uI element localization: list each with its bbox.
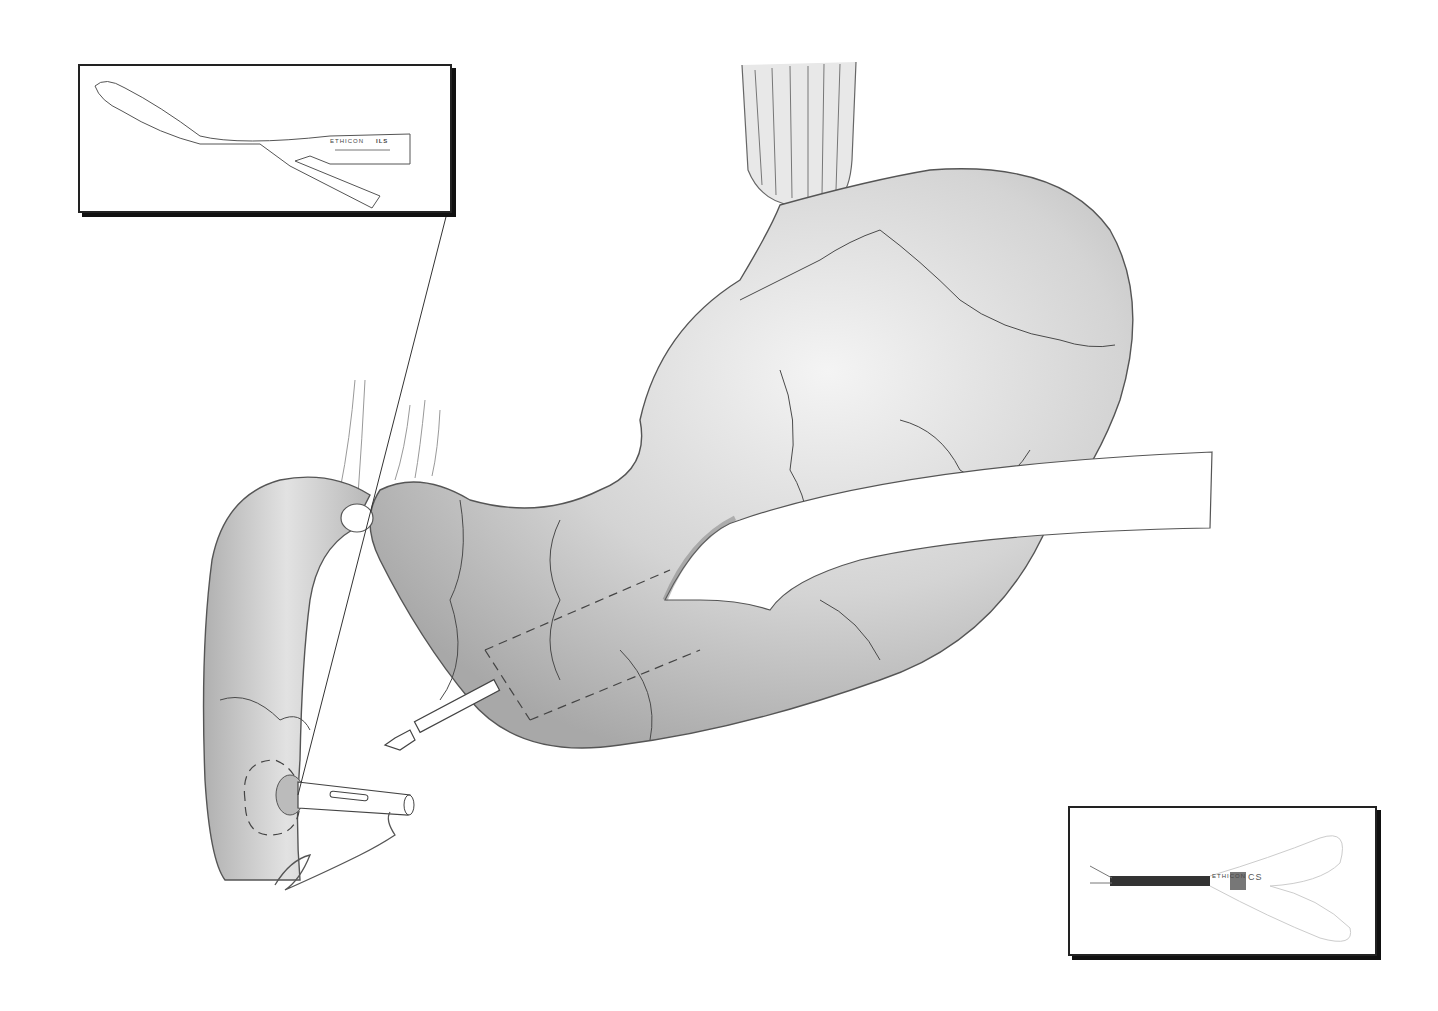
- endoscope-instrument-inset: ETHICON CS: [1068, 806, 1377, 956]
- anvil-tube: [276, 775, 414, 815]
- pylorus-opening: [341, 504, 373, 532]
- inset-model-label: CS: [1248, 872, 1263, 882]
- linear-stapler-icon: [80, 66, 450, 211]
- stapler-instrument-inset: ETHICON ILS: [78, 64, 452, 213]
- esophagus: [742, 62, 856, 205]
- inset-model-label: ILS: [376, 138, 388, 144]
- inset-brand-label: ETHICON: [330, 138, 364, 144]
- circular-stapler-icon: [1070, 808, 1375, 954]
- inset-brand-label: ETHICON: [1212, 873, 1246, 879]
- duodenum: [204, 477, 370, 880]
- illustration-canvas: ETHICON ILS ETHICON CS: [0, 0, 1438, 1011]
- trocar-instrument: [385, 680, 500, 750]
- stomach-body: [370, 169, 1133, 748]
